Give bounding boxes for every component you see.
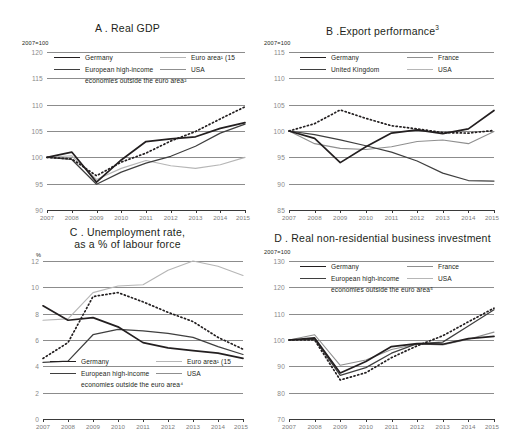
x-tick-label: 2009: [86, 423, 100, 430]
y-tick-label: 6: [35, 337, 39, 344]
legend-label: Germany: [85, 54, 113, 61]
x-tick-label: 2015: [485, 423, 499, 430]
panel-b-series: [289, 52, 494, 210]
y-tick-label: 120: [273, 284, 285, 291]
x-tick-label: 2010: [111, 423, 125, 430]
legend-item-germany: Germany: [50, 358, 109, 365]
x-tick-label: 2009: [333, 423, 347, 430]
legend-swatch-line: [407, 57, 433, 58]
panel-c-title: C . Unemployment rate, as a % of labour …: [0, 226, 255, 250]
legend-swatch-line: [300, 266, 326, 267]
panel-d-unit: 2007=100: [264, 249, 291, 255]
legend-item-european-high-income: European high-income: [54, 66, 153, 73]
x-tick-label: 2007: [36, 423, 50, 430]
x-tick-label: 2010: [359, 214, 373, 221]
series-germany: [289, 336, 494, 373]
series-euro-area-15: [43, 261, 243, 320]
panel-b-plot: [289, 52, 494, 210]
legend-swatch-line: [300, 278, 326, 279]
x-tick-label: 2008: [61, 423, 75, 430]
legend-item-united-kingdom: United Kingdom: [300, 66, 379, 73]
legend-swatch-line: [54, 57, 80, 58]
legend-swatch-line: [50, 361, 76, 362]
x-tick-label: 2007: [282, 214, 296, 221]
x-tick-label: 2015: [234, 423, 248, 430]
y-tick-label: 115: [32, 75, 43, 82]
panel-a-plot: [47, 52, 245, 210]
x-tick-label: 2008: [65, 214, 79, 221]
legend-label: Germany: [81, 358, 109, 365]
panel-c-series: [43, 261, 243, 419]
series-european-high-income-economies-outside-the-euro-area: [289, 310, 494, 376]
y-tick-label: 95: [277, 154, 285, 161]
legend-label: United Kingdom: [331, 66, 379, 73]
figure-sheet: A . Real GDP 2007=100 120 115 110 105 10…: [0, 0, 510, 440]
panel-d-series: [289, 261, 494, 419]
legend-label: European high-income: [85, 66, 153, 73]
legend-item-germany: Germany: [300, 54, 359, 61]
x-tick-label: 2008: [308, 423, 322, 430]
x-tick-label: 2013: [186, 423, 200, 430]
legend-swatch-line: [160, 57, 186, 58]
x-tick-label: 2012: [161, 423, 175, 430]
legend-item-euro-area: Euro area¹ (15: [156, 358, 231, 365]
y-tick-label: 85: [277, 207, 285, 214]
legend-label: European high-income: [81, 370, 149, 377]
y-tick-label: 12: [31, 258, 39, 265]
x-tick-label: 2011: [139, 214, 153, 221]
y-tick-label: 105: [273, 101, 285, 108]
panel-a: A . Real GDP 2007=100 120 115 110 105 10…: [0, 22, 255, 217]
y-tick-label: 0: [35, 416, 39, 423]
legend-swatch-line: [156, 361, 182, 362]
panel-b-title: B .Export performance3: [255, 22, 510, 37]
y-tick-label: 100: [273, 128, 285, 135]
legend-label-continuation: economies outside the euro area⁵: [331, 286, 433, 293]
legend-label-continuation: economies outside the euro area⁴: [81, 381, 183, 388]
x-tick-label: 2014: [213, 214, 227, 221]
panel-b: B .Export performance3 2007=100 115 110 …: [255, 22, 510, 217]
x-tick-label: 2010: [114, 214, 128, 221]
legend-item-france: France: [407, 263, 459, 270]
y-tick-label: 80: [277, 389, 285, 396]
y-tick-label: 110: [274, 310, 285, 317]
x-tick-label: 2014: [211, 423, 225, 430]
x-tick-label: 2014: [461, 423, 475, 430]
panel-a-series: [47, 52, 245, 210]
x-tick-label: 2011: [385, 214, 399, 221]
y-tick-label: 115: [274, 49, 285, 56]
y-tick-label: 8: [35, 310, 39, 317]
x-tick-label: 2007: [40, 214, 54, 221]
panel-b-unit: 2007=100: [264, 40, 291, 46]
legend-item-european-high-income: European high-income: [300, 275, 399, 282]
panel-c-title-line1: C . Unemployment rate,: [0, 226, 255, 238]
legend-label: Euro area¹ (15: [187, 358, 231, 365]
legend-label: USA: [191, 66, 205, 73]
legend-item-usa: USA: [407, 275, 452, 282]
series-germany: [47, 123, 245, 183]
series-usa: [43, 293, 243, 359]
legend-swatch-line: [156, 373, 182, 374]
legend-label: European high-income: [331, 275, 399, 282]
legend-item-usa: USA: [407, 66, 452, 73]
x-tick-label: 2010: [359, 423, 373, 430]
legend-label: USA: [438, 66, 452, 73]
series-european-high-income-economies-outside-the-euro-area: [47, 124, 245, 184]
legend-swatch-line: [54, 69, 80, 70]
x-tick-label: 2015: [236, 214, 250, 221]
x-tick-label: 2013: [188, 214, 202, 221]
x-tick-label: 2015: [485, 214, 499, 221]
x-tick-label: 2012: [410, 423, 424, 430]
legend-swatch-line: [300, 57, 326, 58]
legend-swatch-line: [160, 69, 186, 70]
legend-item-usa: USA: [160, 66, 205, 73]
panel-a-title: A . Real GDP: [0, 22, 255, 34]
series-united-kingdom: [289, 131, 494, 181]
series-germany: [289, 110, 494, 162]
x-tick-label: 2014: [461, 214, 475, 221]
legend-item-germany: Germany: [54, 54, 113, 61]
y-tick-label: 90: [35, 207, 43, 214]
x-tick-label: 2011: [136, 423, 150, 430]
x-tick-label: 2007: [282, 423, 296, 430]
y-tick-label: 10: [31, 284, 39, 291]
panel-c-title-line2: as a % of labour force: [0, 238, 255, 250]
